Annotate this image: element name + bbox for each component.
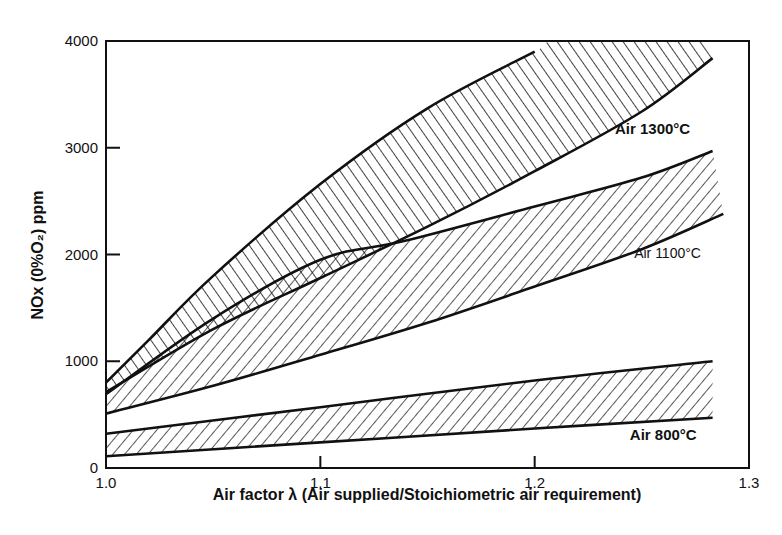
chart-canvas: 010002000300040001.01.11.21.3 Air 1300°C… xyxy=(0,0,782,535)
y-axis-title: NOx (0%O₂) ppm xyxy=(29,191,46,320)
x-tick-label: 1.0 xyxy=(96,474,117,491)
x-tick-label: 1.3 xyxy=(739,474,760,491)
series-label: Air 1100°C xyxy=(634,245,701,261)
y-tick-label: 4000 xyxy=(65,32,98,49)
y-tick-label: 3000 xyxy=(65,139,98,156)
series-label: Air 800°C xyxy=(630,426,697,443)
y-tick-label: 1000 xyxy=(65,352,98,369)
x-axis-title: Air factor λ (Air supplied/Stoichiometri… xyxy=(213,486,642,503)
nox-chart: 010002000300040001.01.11.21.3 Air 1300°C… xyxy=(0,0,782,535)
series-label: Air 1300°C xyxy=(615,120,690,137)
y-tick-label: 2000 xyxy=(65,246,98,263)
bands-layer xyxy=(106,40,723,456)
